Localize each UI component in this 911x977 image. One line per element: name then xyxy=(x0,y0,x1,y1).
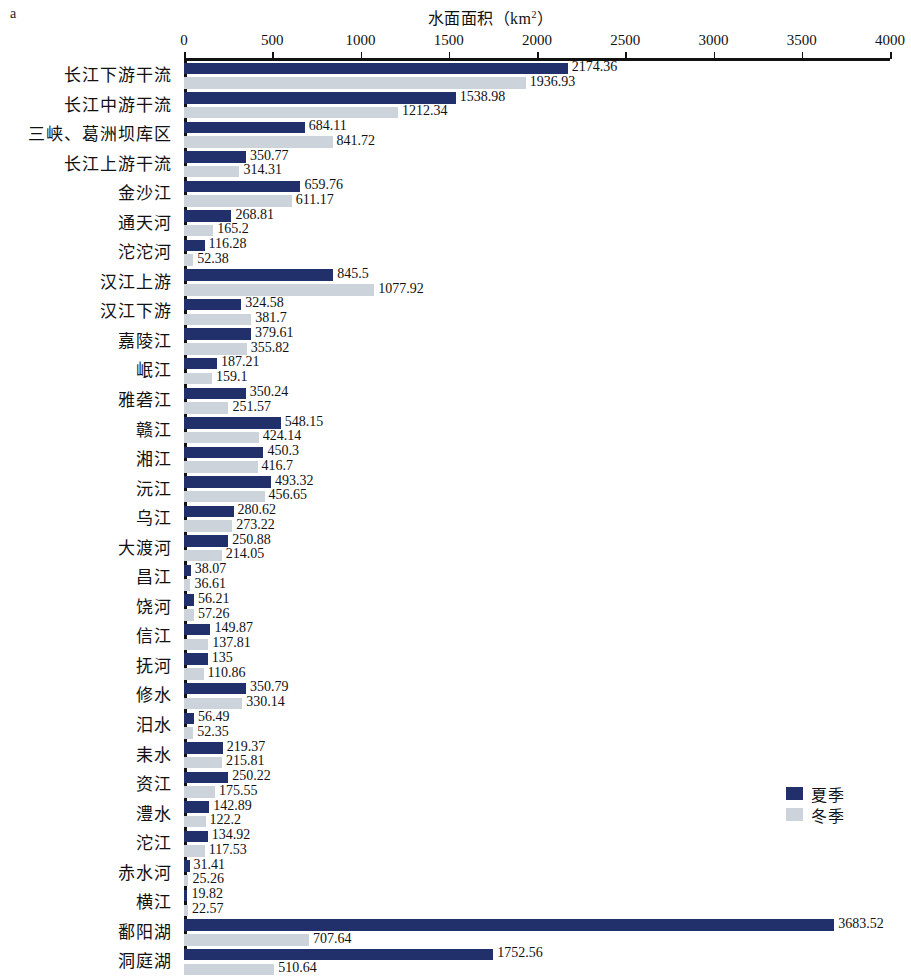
bar-group-winter: 456.65 xyxy=(184,489,890,504)
bar[interactable] xyxy=(184,550,222,562)
legend-item-summer[interactable]: 夏季 xyxy=(786,783,845,804)
bar[interactable] xyxy=(184,373,212,385)
bar[interactable] xyxy=(184,816,206,828)
bar[interactable] xyxy=(184,240,205,252)
bar-group-winter: 36.61 xyxy=(184,578,890,593)
bar-group-winter: 1936.93 xyxy=(184,76,890,91)
bar[interactable] xyxy=(184,181,300,193)
bar[interactable] xyxy=(184,565,191,577)
bar[interactable] xyxy=(184,491,265,503)
bar[interactable] xyxy=(184,358,217,370)
bar[interactable] xyxy=(184,210,231,222)
x-axis-tick-label: 0 xyxy=(180,32,188,49)
bar[interactable] xyxy=(184,683,246,695)
bar[interactable] xyxy=(184,328,251,340)
bar[interactable] xyxy=(184,624,210,636)
bar-value-label: 424.14 xyxy=(259,428,302,444)
bar[interactable] xyxy=(184,964,274,976)
bar[interactable] xyxy=(184,594,194,606)
bar[interactable] xyxy=(184,801,209,813)
bar-value-label: 25.26 xyxy=(188,871,224,887)
bar[interactable] xyxy=(184,831,208,843)
bar-group-summer: 268.81 xyxy=(184,209,890,224)
bar[interactable] xyxy=(184,698,242,710)
bar[interactable] xyxy=(184,476,271,488)
bar[interactable] xyxy=(184,343,247,355)
bar-group-winter: 25.26 xyxy=(184,873,890,888)
bar[interactable] xyxy=(184,919,834,931)
bar[interactable] xyxy=(184,225,213,237)
category-label: 沅江 xyxy=(0,475,178,505)
bar[interactable] xyxy=(184,254,193,266)
bar[interactable] xyxy=(184,314,251,326)
bar[interactable] xyxy=(184,639,208,651)
bar[interactable] xyxy=(184,653,208,665)
bar-group-summer: 684.11 xyxy=(184,120,890,135)
bar[interactable] xyxy=(184,461,258,473)
bar[interactable] xyxy=(184,934,309,946)
bar-value-label: 159.1 xyxy=(212,369,248,385)
legend-item-winter[interactable]: 冬季 xyxy=(786,804,845,825)
category-label: 赣江 xyxy=(0,416,178,446)
category-label: 嘉陵江 xyxy=(0,327,178,357)
bar[interactable] xyxy=(184,284,374,296)
bar-value-label: 611.17 xyxy=(292,192,334,208)
bar[interactable] xyxy=(184,77,526,89)
bar[interactable] xyxy=(184,742,223,754)
bar[interactable] xyxy=(184,609,194,621)
bar[interactable] xyxy=(184,757,222,769)
bar[interactable] xyxy=(184,535,228,547)
bar[interactable] xyxy=(184,166,239,178)
bar[interactable] xyxy=(184,388,246,400)
bar[interactable] xyxy=(184,447,263,459)
bar-value-label: 841.72 xyxy=(333,133,376,149)
bar[interactable] xyxy=(184,136,333,148)
bar-group-winter: 137.81 xyxy=(184,637,890,652)
bar[interactable] xyxy=(184,92,456,104)
bar-value-label: 2174.36 xyxy=(568,59,618,75)
bar[interactable] xyxy=(184,727,193,739)
bar[interactable] xyxy=(184,520,232,532)
bar-group-summer: 250.88 xyxy=(184,534,890,549)
bar-value-label: 381.7 xyxy=(251,310,287,326)
category-label: 长江下游干流 xyxy=(0,61,178,91)
bar[interactable] xyxy=(184,195,292,207)
x-axis-tick-mark xyxy=(890,52,892,59)
bar-group-winter: 330.14 xyxy=(184,696,890,711)
bar[interactable] xyxy=(184,107,398,119)
category-label: 汨水 xyxy=(0,711,178,741)
bar[interactable] xyxy=(184,402,228,414)
category-label: 长江中游干流 xyxy=(0,91,178,121)
bar-value-label: 273.22 xyxy=(232,517,275,533)
bar[interactable] xyxy=(184,299,241,311)
bar[interactable] xyxy=(184,63,568,75)
bar-value-label: 56.21 xyxy=(194,591,230,607)
bar[interactable] xyxy=(184,949,493,961)
bar[interactable] xyxy=(184,432,259,444)
bar[interactable] xyxy=(184,772,228,784)
bar-row: 38.0736.61 xyxy=(184,563,890,593)
bar[interactable] xyxy=(184,417,281,429)
category-label: 沱江 xyxy=(0,829,178,859)
category-label: 湘江 xyxy=(0,445,178,475)
bar-value-label: 165.2 xyxy=(213,221,249,237)
bar-value-label: 350.24 xyxy=(246,384,289,400)
bar[interactable] xyxy=(184,668,204,680)
bar[interactable] xyxy=(184,845,205,857)
bar[interactable] xyxy=(184,786,215,798)
bar-group-summer: 1538.98 xyxy=(184,91,890,106)
category-label: 雅砻江 xyxy=(0,386,178,416)
bar[interactable] xyxy=(184,506,234,518)
bar-row: 31.4125.26 xyxy=(184,859,890,889)
bar[interactable] xyxy=(184,122,305,134)
bar-rows: 2174.361936.931538.981212.34684.11841.72… xyxy=(184,61,890,977)
bar[interactable] xyxy=(184,151,246,163)
bar-row: 56.4952.35 xyxy=(184,711,890,741)
category-label: 资江 xyxy=(0,770,178,800)
bar-value-label: 38.07 xyxy=(191,561,227,577)
bar[interactable] xyxy=(184,713,194,725)
bar-group-winter: 215.81 xyxy=(184,755,890,770)
category-label: 岷江 xyxy=(0,356,178,386)
bar[interactable] xyxy=(184,269,333,281)
